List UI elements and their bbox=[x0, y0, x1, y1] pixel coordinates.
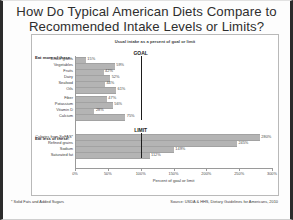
bar-value-label: 59% bbox=[116, 62, 124, 67]
bar-value-label: 280% bbox=[261, 134, 271, 139]
bar-value-label: 47% bbox=[108, 95, 116, 100]
bar-category-label: Dairy bbox=[64, 74, 73, 79]
bar-value-label: 112% bbox=[151, 152, 161, 157]
reference-label-limit: LIMIT bbox=[134, 127, 147, 133]
reference-line-goal bbox=[141, 56, 143, 120]
bar-category-label: Potassium bbox=[55, 101, 73, 106]
bar-value-label: 56% bbox=[114, 101, 122, 106]
x-axis-tick-label: 250% bbox=[234, 171, 244, 176]
page-title-line-1: How Do Typical American Diets Compare to bbox=[11, 4, 282, 19]
chart-panel: Usual intake as a percent of goal or lim… bbox=[31, 34, 279, 196]
x-axis-tick-label: 50% bbox=[104, 171, 112, 176]
bar-row: Vegetables59% bbox=[75, 63, 272, 68]
bar-category-label: Saturated fat bbox=[51, 152, 73, 157]
bar-value-label: 42% bbox=[105, 68, 113, 73]
bar bbox=[76, 152, 150, 159]
bar-value-label: 15% bbox=[87, 56, 95, 61]
x-axis-tick-label: 0% bbox=[72, 171, 78, 176]
bar-value-label: 52% bbox=[112, 74, 120, 79]
bar-category-label: Calcium bbox=[59, 113, 73, 118]
bar-category-label: Whole grains bbox=[50, 56, 73, 61]
bar-category-label: Oils bbox=[66, 86, 73, 91]
x-axis-tick-label: 200% bbox=[201, 171, 211, 176]
bar bbox=[76, 114, 125, 121]
bar-row: Saturated fat112% bbox=[75, 152, 272, 157]
bar-value-label: 61% bbox=[118, 86, 126, 91]
x-axis-tick-label: 100% bbox=[136, 171, 146, 176]
bar-category-label: Calories from SoFAS* bbox=[35, 134, 73, 139]
bar-category-label: Sodium bbox=[60, 146, 73, 151]
slide-canvas: How Do Typical American Diets Compare to… bbox=[0, 0, 293, 220]
page-title: How Do Typical American Diets Compare to… bbox=[11, 4, 282, 34]
bar-row: Potassium56% bbox=[75, 102, 272, 107]
bar-category-label: Vegetables bbox=[54, 62, 73, 67]
bar-category-label: Fiber bbox=[64, 95, 73, 100]
reference-line-limit bbox=[141, 133, 143, 158]
bar-row: Refined grains245% bbox=[75, 140, 272, 145]
bar bbox=[76, 87, 116, 94]
bar-category-label: Vitamin D bbox=[56, 107, 73, 112]
bar-value-label: 245% bbox=[238, 140, 248, 145]
bar-row: Oils61% bbox=[75, 87, 272, 92]
bar-row: Fiber47% bbox=[75, 96, 272, 101]
x-axis-tick-label: 300% bbox=[267, 171, 277, 176]
x-axis-label: Percent of goal or limit bbox=[75, 178, 272, 183]
plot-area: Whole grains15%Vegetables59%Fruits42%Dai… bbox=[75, 56, 272, 168]
bar-category-label: Refined grains bbox=[48, 140, 73, 145]
x-axis-tick-label: 150% bbox=[169, 171, 179, 176]
bar-value-label: 28% bbox=[96, 107, 104, 112]
bar-category-label: Seafood bbox=[59, 80, 74, 85]
footnote: * Solid Fats and Added Sugars bbox=[11, 199, 64, 204]
bar-category-label: Fruits bbox=[63, 68, 73, 73]
reference-label-goal: GOAL bbox=[133, 50, 147, 56]
source-credit: Source: USDA & HHS, Dietary Guidelines f… bbox=[170, 199, 278, 204]
chart-subtitle: Usual intake as a percent of goal or lim… bbox=[32, 39, 278, 44]
bar-row: Calories from SoFAS*280% bbox=[75, 134, 272, 139]
bar-value-label: 75% bbox=[127, 113, 135, 118]
bar-row: Whole grains15% bbox=[75, 57, 272, 62]
bar-row: Sodium149% bbox=[75, 146, 272, 151]
bar-row: Seafood44% bbox=[75, 81, 272, 86]
bar-value-label: 149% bbox=[175, 146, 185, 151]
bar-value-label: 44% bbox=[106, 80, 114, 85]
bar-row: Vitamin D28% bbox=[75, 108, 272, 113]
bar-row: Calcium75% bbox=[75, 114, 272, 119]
page-title-line-2: Recommended Intake Levels or Limits? bbox=[11, 19, 282, 34]
bar-row: Fruits42% bbox=[75, 69, 272, 74]
bar-row: Dairy52% bbox=[75, 75, 272, 80]
